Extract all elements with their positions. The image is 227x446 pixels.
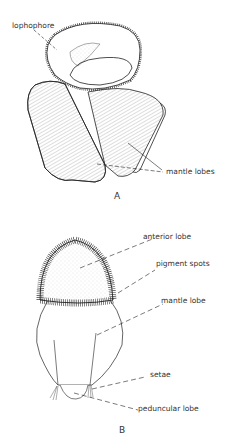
label-pigment-spots: pigment spots	[156, 259, 210, 268]
figure-b-caption: B	[119, 425, 125, 435]
diagram-canvas	[0, 0, 227, 446]
label-mantle-lobe: mantle lobe	[161, 296, 206, 305]
label-lophophore: lophophore	[12, 21, 54, 30]
label-mantle-lobes: mantle lobes	[166, 167, 215, 176]
figure-a-drawing	[28, 23, 166, 182]
label-peduncular-lobe: peduncular lobe	[138, 404, 199, 413]
figure-b-drawing	[36, 238, 163, 410]
label-setae: setae	[150, 370, 171, 379]
figure-a-caption: A	[114, 191, 120, 201]
label-anterior-lobe: anterior lobe	[143, 232, 191, 241]
